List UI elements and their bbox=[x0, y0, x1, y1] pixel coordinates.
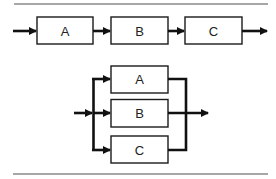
series-block-a-label: A bbox=[61, 24, 70, 39]
parallel-block-c-label: C bbox=[135, 143, 144, 158]
parallel-join-bus bbox=[168, 79, 186, 150]
parallel-block-b-label: B bbox=[135, 106, 144, 121]
parallel-configuration: A B C bbox=[74, 66, 208, 163]
series-block-b: B bbox=[111, 17, 168, 44]
series-block-b-label: B bbox=[135, 24, 144, 39]
parallel-block-b: B bbox=[111, 100, 168, 128]
series-block-a: A bbox=[37, 17, 93, 44]
parallel-block-a-label: A bbox=[135, 72, 144, 87]
series-configuration: A B C bbox=[13, 17, 267, 44]
parallel-block-c: C bbox=[111, 136, 168, 163]
parallel-block-a: A bbox=[111, 66, 168, 93]
series-block-c: C bbox=[185, 17, 242, 44]
series-block-c-label: C bbox=[209, 24, 218, 39]
block-diagram: A B C A B C bbox=[0, 0, 276, 179]
